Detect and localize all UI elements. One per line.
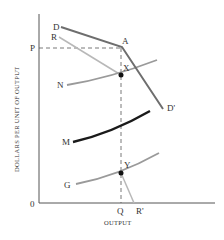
x-axis-label: OUTPUT <box>104 219 131 226</box>
marginal-revenue-lower <box>121 173 134 203</box>
label-p: P <box>30 43 35 53</box>
kinked-demand-diagram: D R P A X N D' M Y G 0 Q R' OUTPUT DOLLA… <box>0 0 224 240</box>
g-cost-curve <box>76 153 159 184</box>
label-d-prime: D' <box>167 103 175 113</box>
m-cost-curve <box>73 111 150 142</box>
label-m: M <box>62 137 70 147</box>
label-d: D <box>53 22 60 32</box>
y-axis-label: DOLLARS PER UNIT OF OUTPUT <box>13 66 20 172</box>
label-a: A <box>122 36 129 46</box>
label-r-prime: R' <box>136 206 144 216</box>
label-n: N <box>57 80 64 90</box>
label-origin: 0 <box>30 199 35 209</box>
label-r: R <box>51 32 57 42</box>
label-g: G <box>64 180 71 190</box>
point-y-marker <box>119 171 124 176</box>
label-x: X <box>123 63 130 73</box>
kinked-demand-curve <box>61 27 163 109</box>
label-q: Q <box>117 206 124 216</box>
point-x-marker <box>119 73 124 78</box>
diagram-canvas: D R P A X N D' M Y G 0 Q R' OUTPUT DOLLA… <box>0 0 224 240</box>
label-y: Y <box>124 160 131 170</box>
